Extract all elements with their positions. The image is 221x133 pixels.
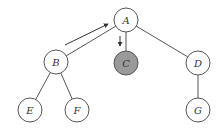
node-label: A: [121, 15, 129, 26]
node-label: F: [73, 105, 82, 116]
edge-a-d: [126, 20, 198, 63]
node-label: D: [193, 58, 202, 69]
node-f: F: [65, 98, 89, 122]
node-g: G: [186, 98, 210, 122]
node-label: B: [51, 57, 59, 68]
traversal-arrows: [65, 24, 120, 46]
node-b: B: [44, 50, 68, 74]
node-c: C: [114, 51, 138, 75]
node-e: E: [18, 98, 42, 122]
node-label: E: [25, 105, 34, 116]
node-label: G: [194, 105, 202, 116]
tree-diagram: ABCDEFG: [0, 0, 221, 133]
nodes: ABCDEFG: [18, 8, 210, 122]
node-a: A: [114, 8, 138, 32]
node-d: D: [186, 51, 210, 75]
node-label: C: [122, 58, 130, 69]
